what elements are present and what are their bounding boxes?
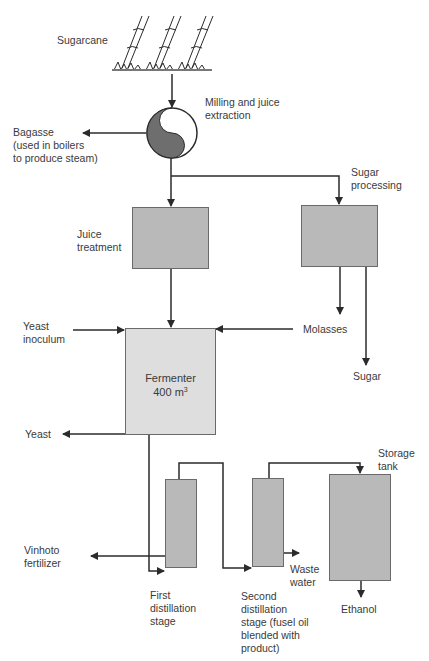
molasses-label: Molasses bbox=[303, 323, 347, 336]
juice-treatment-box bbox=[132, 207, 209, 269]
mill-icon bbox=[147, 108, 197, 158]
sugar-label: Sugar bbox=[353, 370, 381, 383]
vinhoto-fertilizer-label: Vinhoto fertilizer bbox=[24, 544, 61, 570]
juice-treatment-label: Juice treatment bbox=[77, 228, 121, 254]
waste-water-label: Waste water bbox=[290, 563, 319, 589]
sugarcane-icon bbox=[112, 16, 213, 70]
storage-tank-label: Storage tank bbox=[378, 447, 415, 473]
bagasse-label: Bagasse (used in boilers to produce stea… bbox=[13, 126, 98, 165]
storage-tank-box bbox=[329, 474, 391, 581]
arrow-mill-to-sugar-processing bbox=[171, 176, 339, 204]
yeast-inoculum-label: Yeast inoculum bbox=[23, 320, 65, 346]
yeast-label: Yeast bbox=[25, 428, 51, 441]
second-distillation-label: Second distillation stage (fusel oil ble… bbox=[241, 590, 309, 655]
process-flow-diagram: Fermenter 400 m3 Sugarcane Milling and j… bbox=[0, 0, 429, 661]
milling-label: Milling and juice extraction bbox=[205, 96, 280, 122]
fermenter-label: Fermenter 400 m3 bbox=[125, 371, 216, 399]
fermenter-title: Fermenter bbox=[145, 372, 196, 384]
fermenter-capacity: 400 m3 bbox=[153, 386, 187, 398]
second-distillation-column bbox=[252, 478, 284, 567]
arrow-fermenter-to-first-distillation bbox=[149, 435, 164, 571]
first-distillation-label: First distillation stage bbox=[150, 589, 196, 628]
sugar-processing-box bbox=[301, 205, 378, 267]
sugarcane-label: Sugarcane bbox=[57, 34, 108, 47]
ethanol-label: Ethanol bbox=[341, 603, 377, 616]
sugar-processing-label: Sugar processing bbox=[351, 166, 402, 192]
first-distillation-column bbox=[165, 479, 197, 568]
